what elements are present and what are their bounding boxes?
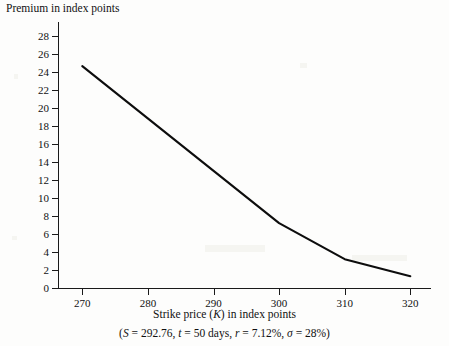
y-tick-label: 12 bbox=[19, 174, 49, 185]
y-tick bbox=[52, 252, 58, 253]
y-tick-label: 20 bbox=[19, 102, 49, 113]
y-tick bbox=[52, 126, 58, 127]
x-tick bbox=[410, 289, 411, 295]
y-tick-label: 10 bbox=[19, 192, 49, 203]
y-tick bbox=[52, 270, 58, 271]
x-tick bbox=[345, 289, 346, 295]
y-tick bbox=[52, 234, 58, 235]
y-axis-title: Premium in index points bbox=[6, 2, 119, 15]
y-axis-line bbox=[58, 22, 59, 289]
y-tick-label: 4 bbox=[19, 246, 49, 257]
y-tick-label: 24 bbox=[19, 66, 49, 77]
y-tick bbox=[52, 72, 58, 73]
scan-artifact bbox=[205, 245, 265, 252]
footnote-part-6: = 7.12%, bbox=[239, 327, 287, 339]
premium-line bbox=[82, 66, 410, 276]
x-tick bbox=[279, 289, 280, 295]
y-tick-label: 14 bbox=[19, 156, 49, 167]
y-tick bbox=[52, 162, 58, 163]
scan-artifact bbox=[14, 74, 18, 79]
y-tick bbox=[52, 180, 58, 181]
y-tick-label: 16 bbox=[19, 138, 49, 149]
footnote-part-2: = 292.76, bbox=[129, 327, 179, 339]
y-tick-label: 2 bbox=[19, 265, 49, 276]
y-tick-label: 0 bbox=[19, 283, 49, 294]
y-tick bbox=[52, 144, 58, 145]
y-tick-label: 6 bbox=[19, 228, 49, 239]
y-tick-label: 18 bbox=[19, 120, 49, 131]
y-tick-label: 26 bbox=[19, 48, 49, 59]
y-tick-label: 8 bbox=[19, 210, 49, 221]
y-tick bbox=[52, 54, 58, 55]
y-tick bbox=[52, 36, 58, 37]
x-tick bbox=[148, 289, 149, 295]
footnote-part-8: = 28%) bbox=[293, 327, 330, 339]
x-axis-title-after: ) in index points bbox=[221, 308, 296, 320]
y-tick bbox=[52, 288, 58, 289]
y-tick-label: 28 bbox=[19, 30, 49, 41]
y-tick bbox=[52, 216, 58, 217]
x-axis-line bbox=[58, 288, 431, 289]
data-line-layer bbox=[0, 0, 449, 346]
premium-vs-strike-chart: Premium in index points 0246810121416182… bbox=[0, 0, 449, 346]
y-tick-label: 22 bbox=[19, 84, 49, 95]
x-axis-title-variable: K bbox=[213, 308, 221, 320]
footnote-part-4: = 50 days, bbox=[181, 327, 234, 339]
y-tick bbox=[52, 108, 58, 109]
scan-artifact bbox=[352, 255, 407, 261]
x-axis-title-before: Strike price ( bbox=[153, 308, 213, 320]
scan-artifact bbox=[12, 236, 17, 240]
y-tick bbox=[52, 90, 58, 91]
scan-artifact bbox=[300, 63, 307, 68]
y-tick bbox=[52, 198, 58, 199]
x-tick bbox=[214, 289, 215, 295]
x-tick bbox=[82, 289, 83, 295]
chart-parameters-footnote: (S = 292.76, t = 50 days, r = 7.12%, σ =… bbox=[0, 327, 449, 340]
x-axis-title: Strike price (K) in index points bbox=[0, 308, 449, 321]
